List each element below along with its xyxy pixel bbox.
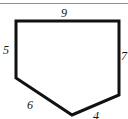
geometry-figure-screenshot: 9 5 7 6 4: [0, 0, 128, 119]
side-length-label-lower-left: 6: [27, 99, 33, 111]
side-length-label-lower-right: 4: [93, 110, 99, 119]
side-length-label-top: 9: [61, 7, 67, 19]
side-length-label-left: 5: [3, 44, 9, 56]
side-length-label-right: 7: [121, 50, 127, 62]
